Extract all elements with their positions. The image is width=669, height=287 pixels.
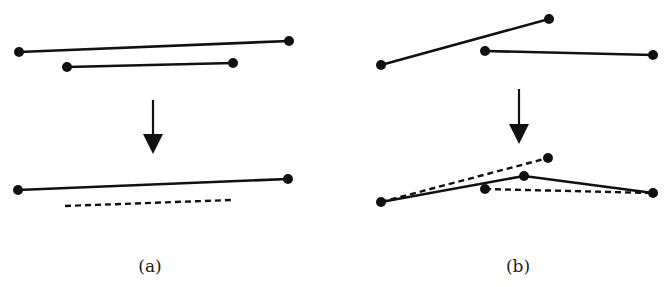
vertex-dot — [648, 188, 658, 198]
line-segment — [381, 19, 549, 65]
endpoint-dot — [62, 62, 72, 72]
merged-segment — [381, 176, 524, 202]
endpoint-dot — [480, 46, 490, 56]
endpoint-dot — [544, 14, 554, 24]
vertex-dot — [543, 153, 553, 163]
line-segment — [485, 51, 653, 55]
vertex-dot — [376, 197, 386, 207]
endpoint-dot — [228, 58, 238, 68]
panel-a-caption: (a) — [138, 258, 161, 275]
panel-a-diagram — [13, 36, 294, 206]
merged-segment — [18, 179, 288, 190]
vertex-dot — [519, 171, 529, 181]
figure-canvas — [0, 0, 669, 287]
endpoint-dot — [284, 36, 294, 46]
dashed-segment — [65, 200, 231, 206]
line-segment — [19, 41, 289, 52]
endpoint-dot — [283, 174, 293, 184]
down-arrow-icon — [509, 124, 529, 144]
endpoint-dot — [376, 60, 386, 70]
endpoint-dot — [648, 50, 658, 60]
panel-b-diagram — [376, 14, 658, 207]
endpoint-dot — [14, 47, 24, 57]
panel-b-caption: (b) — [506, 258, 530, 275]
down-arrow-icon — [143, 134, 163, 154]
vertex-dot — [480, 184, 490, 194]
line-segment — [67, 63, 233, 67]
endpoint-dot — [13, 185, 23, 195]
